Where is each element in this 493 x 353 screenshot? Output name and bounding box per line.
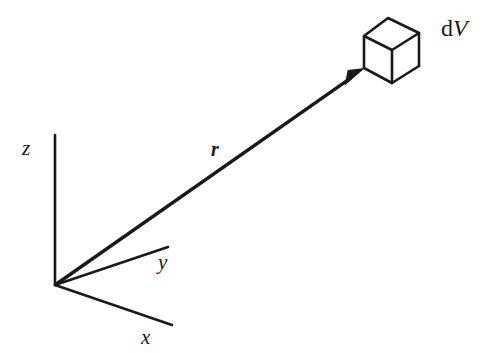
differential-d: d — [441, 15, 453, 41]
y-axis-label: y — [158, 252, 167, 273]
coordinate-diagram — [0, 0, 493, 353]
z-axis-label: z — [22, 138, 30, 159]
x-axis-label: x — [141, 327, 150, 348]
vector-r-label: r — [211, 139, 219, 159]
volume-element-label: dV — [441, 16, 468, 40]
volume-symbol-v: V — [453, 15, 468, 41]
